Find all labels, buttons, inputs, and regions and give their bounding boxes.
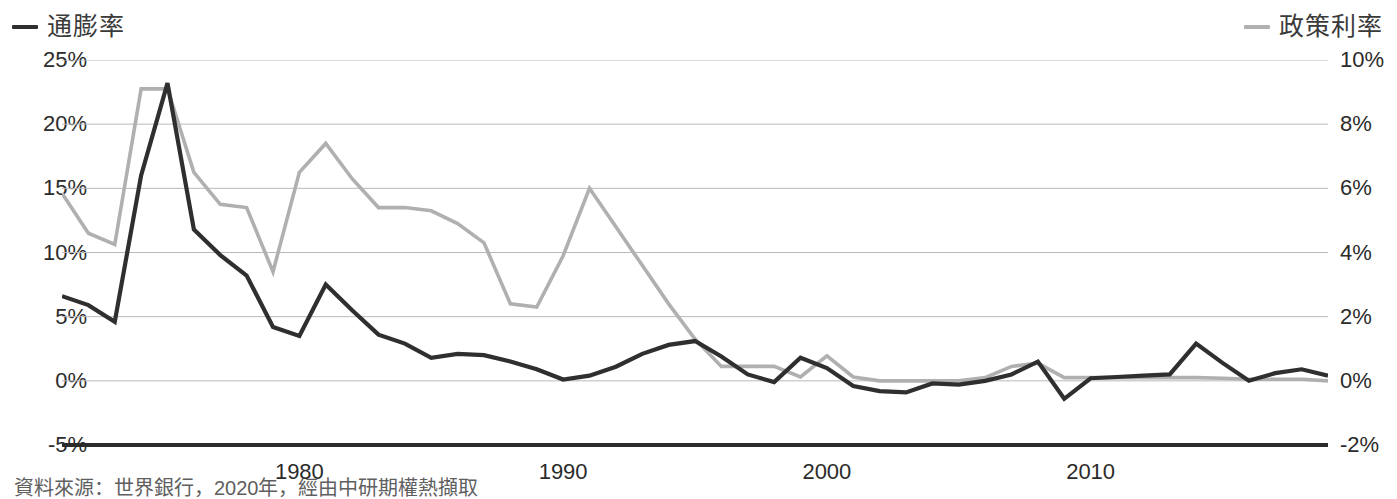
- legend-policy-rate: 政策利率: [1244, 14, 1383, 39]
- legend-label-policy-rate: 政策利率: [1279, 14, 1383, 39]
- x-tick-1: 1990: [539, 461, 588, 483]
- series-line-policy-rate: [62, 89, 1328, 381]
- series-line-inflation: [62, 83, 1328, 399]
- legend-swatch-policy-rate: [1244, 25, 1270, 29]
- x-tick-3: 2010: [1066, 461, 1115, 483]
- chart-canvas: [62, 60, 1328, 449]
- y-tick-right-3: 4%: [1340, 242, 1372, 264]
- legend-label-inflation: 通膨率: [47, 14, 125, 39]
- plot-area: [62, 60, 1328, 445]
- y-tick-right-5: 0%: [1340, 370, 1372, 392]
- y-tick-right-4: 2%: [1340, 306, 1372, 328]
- legend-inflation: 通膨率: [12, 14, 125, 39]
- source-caption: 資料來源：世界銀行，2020年，經由中研期權熱擷取: [14, 477, 479, 499]
- y-tick-right-1: 8%: [1340, 113, 1372, 135]
- legend-swatch-inflation: [12, 25, 38, 29]
- y-tick-right-6: -2%: [1340, 434, 1379, 456]
- x-tick-2: 2000: [802, 461, 851, 483]
- y-tick-right-0: 10%: [1340, 49, 1384, 71]
- y-tick-right-2: 6%: [1340, 177, 1372, 199]
